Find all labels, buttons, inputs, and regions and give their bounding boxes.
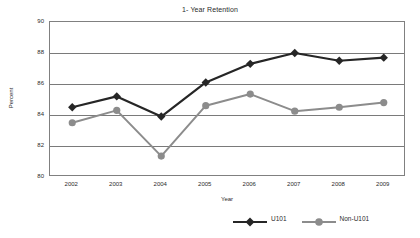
x-axis-label: Year	[49, 196, 405, 202]
x-axis-tick: 2006	[229, 181, 269, 187]
x-axis-tick: 2003	[96, 181, 136, 187]
chart-title: 1- Year Retention	[0, 6, 420, 13]
plot-area	[49, 21, 405, 176]
chart-legend: U101Non-U101	[232, 213, 369, 223]
x-axis-tick: 2007	[274, 181, 314, 187]
legend-label: Non-U101	[340, 215, 370, 222]
data-point-marker	[291, 108, 298, 115]
x-axis-tick: 2009	[363, 181, 403, 187]
x-axis-tick: 2008	[318, 181, 358, 187]
data-point-marker	[291, 49, 299, 57]
x-axis-tick: 2004	[140, 181, 180, 187]
series-layer	[50, 22, 406, 177]
series-line	[72, 94, 384, 156]
x-axis-tick: 2002	[51, 181, 91, 187]
data-point-marker	[247, 90, 254, 97]
data-point-marker	[113, 92, 121, 100]
data-point-marker	[158, 152, 165, 159]
x-axis-tick: 2005	[185, 181, 225, 187]
y-axis-tick: 86	[22, 80, 44, 86]
y-axis-tick: 90	[22, 18, 44, 24]
legend-item[interactable]: Non-U101	[301, 213, 370, 223]
data-point-marker	[336, 104, 343, 111]
data-point-marker	[202, 102, 209, 109]
y-axis-tick: 88	[22, 49, 44, 55]
data-point-marker	[68, 103, 76, 111]
diamond-marker-icon	[232, 213, 268, 223]
legend-item[interactable]: U101	[232, 213, 287, 223]
y-axis-tick: 82	[22, 142, 44, 148]
y-axis-tick: 80	[22, 173, 44, 179]
y-axis-label: Percent	[8, 73, 14, 123]
y-axis-tick: 84	[22, 111, 44, 117]
data-point-marker	[113, 107, 120, 114]
circle-marker-icon	[301, 213, 337, 223]
data-point-marker	[380, 53, 388, 61]
data-point-marker	[380, 99, 387, 106]
data-point-marker	[335, 57, 343, 65]
data-point-marker	[246, 60, 254, 68]
legend-label: U101	[271, 215, 287, 222]
chart-container: 1- Year Retention Percent 808284868890 2…	[0, 0, 420, 238]
data-point-marker	[69, 119, 76, 126]
